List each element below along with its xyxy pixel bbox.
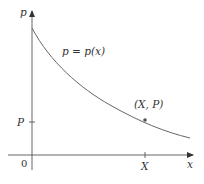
x-axis-label: x [187, 158, 193, 170]
demand-curve-diagram: p x 0 p = p(x) (X, P) X P [0, 0, 204, 184]
y-axis-label: p [20, 6, 27, 18]
point-x-p [143, 118, 147, 122]
origin-label: 0 [21, 158, 27, 169]
point-label: (X, P) [134, 98, 163, 110]
demand-curve [32, 28, 190, 138]
curve-label: p = p(x) [62, 45, 105, 57]
y-tick-label: P [16, 116, 25, 128]
x-tick-label: X [140, 160, 149, 172]
